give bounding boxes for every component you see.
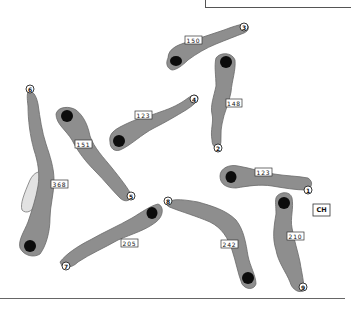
svg-text:9: 9 [301, 284, 305, 291]
tee-marker-3[interactable]: 3 [240, 23, 248, 31]
svg-text:151: 151 [77, 141, 91, 148]
yardage-label-4: 123 [135, 111, 152, 119]
green-1 [226, 171, 237, 183]
tee-marker-8[interactable]: 8 [164, 197, 172, 205]
yardage-label-3: 150 [185, 36, 202, 44]
yardage-label-5: 151 [75, 140, 92, 148]
hole-3[interactable]: 150 3 [167, 23, 249, 70]
green-4 [113, 135, 125, 147]
bottom-divider [0, 298, 345, 299]
svg-text:1: 1 [306, 187, 310, 194]
green-6 [24, 240, 36, 252]
svg-text:123: 123 [137, 112, 151, 119]
green-9 [278, 197, 290, 209]
hole-8[interactable]: 242 8 [164, 197, 256, 289]
yardage-label-1: 123 [255, 168, 272, 176]
svg-text:123: 123 [257, 169, 271, 176]
tee-marker-9[interactable]: 9 [299, 283, 307, 291]
tee-marker-5[interactable]: 5 [127, 192, 135, 200]
yardage-label-2: 148 [226, 99, 242, 107]
svg-text:2: 2 [216, 145, 220, 152]
svg-text:150: 150 [187, 37, 201, 44]
green-7 [147, 207, 158, 219]
hole-4[interactable]: 123 4 [110, 95, 198, 151]
clubhouse-label: CH [316, 206, 326, 214]
yardage-label-7: 205 [121, 239, 138, 247]
tee-marker-2[interactable]: 2 [214, 144, 222, 152]
tee-marker-1[interactable]: 1 [304, 186, 312, 194]
hole-9[interactable]: 210 9 [274, 193, 307, 292]
green-3 [170, 56, 182, 66]
green-8 [242, 272, 254, 284]
fairway-9 [274, 193, 304, 292]
yardage-label-8: 242 [221, 240, 238, 248]
svg-text:5: 5 [129, 193, 133, 200]
green-5 [61, 110, 73, 122]
svg-text:3: 3 [242, 24, 246, 31]
svg-text:4: 4 [192, 96, 196, 103]
hole-1[interactable]: 123 1 [220, 165, 312, 194]
svg-text:8: 8 [166, 198, 170, 205]
hole-2[interactable]: 148 2 [211, 54, 242, 152]
yardage-label-6: 368 [51, 180, 68, 188]
svg-text:210: 210 [289, 233, 303, 240]
svg-text:6: 6 [28, 86, 32, 93]
hole-7[interactable]: 205 7 [60, 204, 162, 270]
tee-marker-4[interactable]: 4 [190, 95, 198, 103]
svg-text:7: 7 [64, 263, 68, 270]
svg-text:368: 368 [53, 181, 67, 188]
tee-marker-6[interactable]: 6 [26, 85, 34, 93]
fairway-8 [167, 200, 256, 289]
green-2 [220, 56, 232, 68]
svg-text:242: 242 [223, 241, 237, 248]
yardage-label-9: 210 [287, 232, 304, 240]
svg-text:205: 205 [123, 240, 137, 247]
tee-marker-7[interactable]: 7 [62, 262, 70, 270]
clubhouse[interactable]: CH [313, 204, 330, 216]
svg-text:148: 148 [227, 100, 241, 107]
